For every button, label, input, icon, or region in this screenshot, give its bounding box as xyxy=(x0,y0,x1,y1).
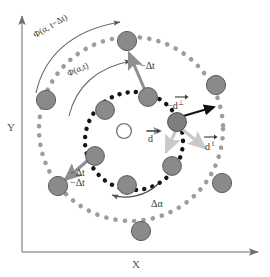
vector-d-tangential xyxy=(182,129,205,148)
label-minus-dt-left-2: −Δt xyxy=(70,178,85,188)
outer-particle-bottom xyxy=(131,221,150,240)
label-d-perp-superscript: ⊥ xyxy=(178,99,184,107)
outer-particle-right xyxy=(212,173,231,192)
outer-particle-lower-left xyxy=(48,176,67,195)
label-d-tangential-superscript: t xyxy=(212,139,214,148)
x-axis-label: X xyxy=(132,259,140,270)
vector-d-down xyxy=(166,130,176,152)
label-delta-alpha: Δα xyxy=(151,199,163,209)
phi-prev-arc-arrow xyxy=(36,22,120,93)
label-minus-dt-top: −Δt xyxy=(140,61,155,71)
label-d-perp: −d⊥ xyxy=(167,100,184,111)
y-axis-label: Y xyxy=(7,122,15,133)
outer-particle-left xyxy=(36,90,55,109)
inner-particle-lower-right xyxy=(163,157,182,176)
inner-particle-bottom xyxy=(118,176,137,195)
label-d-perp-text: −d xyxy=(167,100,178,111)
inner-particle-top xyxy=(139,88,158,107)
vector-d-perp xyxy=(180,107,214,117)
inner-particle-left xyxy=(96,101,115,120)
center-hollow-circle xyxy=(117,124,132,139)
inner-particle-key xyxy=(168,113,187,132)
outer-particle-top xyxy=(117,31,136,50)
inner-particle-lower-left xyxy=(86,147,105,166)
label-d-tangential-text: d xyxy=(205,141,210,152)
label-d-center: d xyxy=(148,134,153,144)
diagram-svg xyxy=(0,0,270,277)
figure-canvas: Φ(α, t−Δt) Φ(α,t) −Δt −Δt −Δt Δα d −d⊥ d… xyxy=(0,0,270,277)
outer-particle-upper-right xyxy=(206,75,225,94)
label-d-tangential: dt xyxy=(205,140,214,152)
